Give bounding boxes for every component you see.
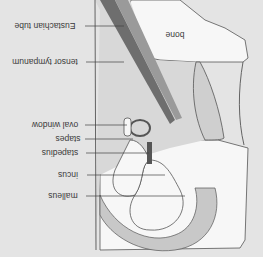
middle-ear-diagram: bone Eustachian tube tensor tympanum ova… <box>0 0 263 257</box>
oval-window-label: oval window <box>31 120 78 130</box>
label-bone: bone <box>165 30 184 40</box>
bone-label: bone <box>165 30 184 40</box>
stapedius-label: stapedius <box>42 148 78 158</box>
tensor-tympanum-label: tensor tympanum <box>12 57 78 67</box>
stapes-label: stapes <box>55 134 80 144</box>
malleus-label: malleus <box>48 191 77 201</box>
oval-window-shape <box>124 118 131 136</box>
eustachian-tube-label: Eustachian tube <box>14 21 75 31</box>
incus-label: incus <box>58 170 78 180</box>
